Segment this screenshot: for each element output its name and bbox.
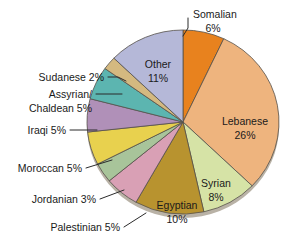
- label-other-name: Other: [145, 58, 172, 70]
- label-somalian-pct: 6%: [205, 22, 220, 34]
- leader-line-palestinian: [124, 213, 146, 227]
- label-iraqi: Iraqi 5%: [27, 124, 66, 136]
- label-other-pct: 11%: [148, 72, 168, 84]
- label-lebanese-name: Lebanese: [222, 115, 268, 127]
- label-somalian-name: Somalian: [193, 8, 237, 20]
- label-assyrian-line2: Chaldean 5%: [29, 102, 92, 114]
- label-sudanese: Sudanese 2%: [39, 71, 104, 83]
- label-jordanian: Jordanian 3%: [32, 193, 96, 205]
- label-moroccan: Moroccan 5%: [18, 162, 82, 174]
- label-syrian-pct: 8%: [208, 191, 223, 203]
- label-syrian-name: Syrian: [201, 177, 231, 189]
- label-egyptian-pct: 10%: [166, 213, 187, 225]
- pie-chart-svg: Somalian 6% Sudanese 2% Assyrian/ Chalde…: [0, 0, 299, 250]
- label-lebanese-pct: 26%: [234, 129, 255, 141]
- pie-chart-figure: Somalian 6% Sudanese 2% Assyrian/ Chalde…: [0, 0, 299, 250]
- label-palestinian: Palestinian 5%: [51, 221, 120, 233]
- label-egyptian-name: Egyptian: [157, 199, 198, 211]
- label-assyrian-line1: Assyrian/: [49, 88, 92, 100]
